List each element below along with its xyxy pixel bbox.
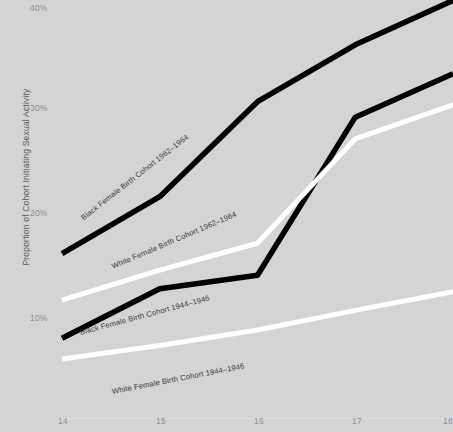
line-black-1944-1946 [62,74,453,339]
chart-canvas: Proportion of Cohort Initiating Sexual A… [0,0,453,432]
